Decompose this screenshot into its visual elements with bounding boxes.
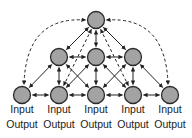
labels-layer: InputOutputInputOutputInputOutputInputOu… [6,103,186,130]
node-m0 [51,49,68,66]
node-label-output: Output [6,118,38,130]
node-b0 [14,87,31,104]
node-b3 [125,87,142,104]
edge-m2-b4 [140,65,162,88]
edge-m0-b0 [29,65,51,88]
network-diagram: InputOutputInputOutputInputOutputInputOu… [0,0,192,138]
node-top [88,12,105,29]
node-label-output: Output [117,118,149,130]
node-label-input: Input [121,103,144,115]
node-b4 [162,87,179,104]
node-label-input: Input [158,103,181,115]
nodes-layer [14,12,179,104]
node-b2 [88,87,105,104]
edge-top-m0 [66,27,88,49]
node-label-input: Input [47,103,70,115]
node-label-output: Output [43,118,75,130]
node-m1 [88,49,105,66]
edge-top-m2 [103,27,125,49]
node-label-output: Output [80,118,112,130]
node-b1 [51,87,68,104]
node-label-input: Input [84,103,107,115]
node-label-output: Output [154,118,186,130]
node-label-input: Input [10,103,33,115]
node-m2 [125,49,142,66]
